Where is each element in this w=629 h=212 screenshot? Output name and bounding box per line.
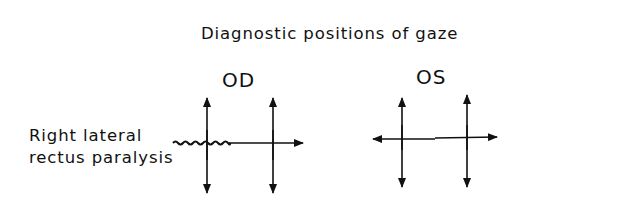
od-wavy-paralysis-segment [173,142,230,145]
gaze-diagrams [0,0,629,212]
od-diagram [173,98,303,193]
os-diagram [373,95,497,187]
os-horizontal-arrow-right [435,137,497,138]
